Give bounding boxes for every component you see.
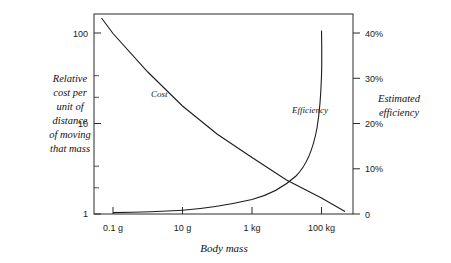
y-left-axis-title-line-4: distance [53, 115, 88, 126]
y-left-tick-label-1: 1 [83, 209, 88, 219]
y-right-tick-label-20: 20% [365, 119, 383, 129]
x-tick-label-1-kg: 1 kg [243, 223, 260, 233]
chart-figure: 1 10 100 0 10% 20% 30% 40% 0.1 g 10 g 1 … [0, 0, 451, 263]
y-left-axis-title-line-1: Relative [52, 73, 88, 84]
x-axis-ticks [113, 207, 322, 214]
y-right-axis-title-line-1: Estimated [377, 93, 421, 104]
cost-curve-label: Cost [151, 89, 168, 99]
y-left-axis-title: Relative cost per unit of distance of mo… [49, 73, 91, 154]
x-tick-label-0-1-g: 0.1 g [103, 223, 123, 233]
y-right-tick-label-0: 0 [365, 210, 370, 220]
x-axis-title: Body mass [200, 242, 247, 254]
y-left-axis-title-line-5: of moving [49, 129, 91, 140]
y-right-axis-title-line-2: efficiency [379, 107, 420, 118]
efficiency-curve-label: Efficiency [291, 105, 328, 115]
x-tick-label-10-g: 10 g [174, 223, 192, 233]
y-right-tick-label-30: 30% [365, 74, 383, 84]
y-right-axis-title: Estimated efficiency [377, 93, 421, 118]
y-left-axis-title-line-2: cost per [53, 87, 87, 98]
y-left-axis-ticks [94, 33, 101, 214]
y-right-tick-label-10: 10% [365, 164, 383, 174]
y-left-axis-title-line-3: unit of [56, 101, 85, 112]
y-right-axis-ticks [353, 33, 360, 214]
y-right-tick-label-40: 40% [365, 29, 383, 39]
y-left-tick-label-100: 100 [73, 29, 88, 39]
y-left-axis-title-line-6: that mass [50, 143, 90, 154]
efficiency-curve [113, 31, 322, 213]
figure-container: 1 10 100 0 10% 20% 30% 40% 0.1 g 10 g 1 … [0, 0, 451, 263]
x-tick-label-100-kg: 100 kg [308, 223, 335, 233]
